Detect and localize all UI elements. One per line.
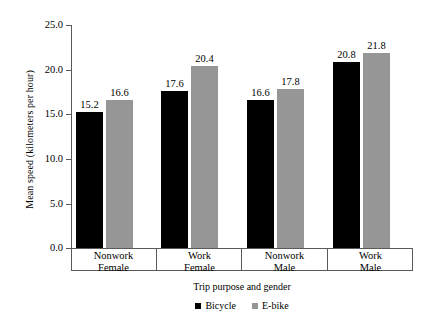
x-axis-line bbox=[71, 248, 413, 249]
bar-ebike-nonwork-male bbox=[277, 89, 304, 248]
bar-bicycle-nonwork-male bbox=[247, 100, 274, 248]
category-label-line1: Nonwork bbox=[242, 250, 327, 262]
y-tick-label-5: 5.0 bbox=[29, 198, 63, 209]
bar-bicycle-work-female bbox=[161, 91, 188, 248]
bar-ebike-work-female bbox=[191, 66, 218, 248]
bar-ebike-nonwork-female bbox=[106, 100, 133, 248]
bar-value-bicycle-nonwork-female: 15.2 bbox=[74, 99, 105, 110]
y-tick-label-0: 0.0 bbox=[29, 242, 63, 253]
bar-value-bicycle-nonwork-male: 16.6 bbox=[245, 87, 276, 98]
category-label-nonwork-male: Nonwork Male bbox=[242, 250, 327, 273]
bar-value-bicycle-work-female: 17.6 bbox=[159, 78, 190, 89]
chart-legend: Bicycle E-bike bbox=[71, 300, 413, 311]
y-tick-label-20: 20.0 bbox=[29, 64, 63, 75]
category-label-line2: Female bbox=[157, 262, 242, 274]
category-label-work-male: Work Male bbox=[328, 250, 413, 273]
bar-bicycle-work-male bbox=[333, 62, 360, 248]
bar-bicycle-nonwork-female bbox=[76, 112, 103, 248]
bar-value-ebike-work-male: 21.8 bbox=[361, 40, 392, 51]
category-label-line2: Male bbox=[242, 262, 327, 274]
legend-entry-ebike: E-bike bbox=[252, 300, 289, 311]
legend-entry-bicycle: Bicycle bbox=[195, 300, 236, 311]
legend-label-bicycle: Bicycle bbox=[205, 300, 236, 311]
category-label-line2: Male bbox=[328, 262, 413, 274]
bar-ebike-work-male bbox=[363, 53, 390, 248]
x-axis-title: Trip purpose and gender bbox=[71, 281, 413, 292]
category-label-line1: Work bbox=[157, 250, 242, 262]
category-label-nonwork-female: Nonwork Female bbox=[71, 250, 156, 273]
y-tick-label-25: 25.0 bbox=[29, 19, 63, 30]
bar-value-bicycle-work-male: 20.8 bbox=[331, 49, 362, 60]
bar-value-ebike-work-female: 20.4 bbox=[189, 53, 220, 64]
legend-swatch-ebike-icon bbox=[252, 303, 258, 309]
bar-value-ebike-nonwork-female: 16.6 bbox=[104, 87, 135, 98]
y-tick-label-10: 10.0 bbox=[29, 153, 63, 164]
y-axis-line bbox=[71, 25, 72, 249]
category-label-line2: Female bbox=[71, 262, 156, 274]
category-label-line1: Nonwork bbox=[71, 250, 156, 262]
y-tick-label-15: 15.0 bbox=[29, 108, 63, 119]
legend-swatch-bicycle-icon bbox=[195, 303, 201, 309]
category-label-line1: Work bbox=[328, 250, 413, 262]
category-label-work-female: Work Female bbox=[157, 250, 242, 273]
bar-chart: Mean speed (kilometers per hour) 25.0 20… bbox=[0, 0, 437, 331]
bar-value-ebike-nonwork-male: 17.8 bbox=[275, 76, 306, 87]
legend-label-ebike: E-bike bbox=[262, 300, 289, 311]
